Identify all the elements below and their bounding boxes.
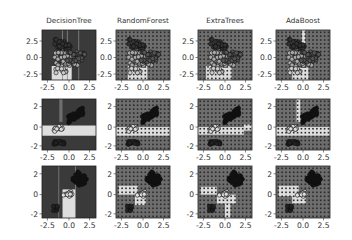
data-point bbox=[70, 114, 74, 118]
y-tick-label: -2.5 bbox=[97, 70, 112, 79]
data-point bbox=[59, 141, 63, 145]
data-point bbox=[293, 127, 297, 131]
data-point bbox=[151, 183, 155, 187]
data-point bbox=[83, 52, 87, 56]
subplot-1-0: -2.50.02.520-2 bbox=[30, 99, 96, 162]
data-point bbox=[226, 114, 230, 118]
y-tick-label: 0 bbox=[267, 190, 272, 199]
y-tick-label: 2 bbox=[189, 170, 194, 179]
subplot-2-2: -2.50.02.520-2 bbox=[186, 166, 252, 230]
x-tick-label: 2.5 bbox=[157, 221, 169, 230]
y-tick-label: -2 bbox=[264, 142, 272, 151]
y-tick-label: -2.5 bbox=[23, 70, 38, 79]
data-point bbox=[311, 183, 315, 187]
data-point bbox=[59, 127, 63, 131]
data-point bbox=[157, 52, 161, 56]
data-point bbox=[215, 67, 219, 71]
y-tick-label: -2 bbox=[264, 210, 272, 219]
x-tick-label: -2.5 bbox=[40, 83, 55, 92]
y-tick-label: 0.0 bbox=[26, 53, 38, 62]
data-point bbox=[151, 57, 155, 61]
y-tick-label: -2.5 bbox=[257, 70, 272, 79]
data-point bbox=[288, 141, 292, 145]
data-point bbox=[72, 117, 76, 121]
x-tick-label: 0.0 bbox=[297, 153, 309, 162]
data-point bbox=[233, 183, 237, 187]
data-point bbox=[315, 111, 319, 115]
y-tick-label: 2 bbox=[107, 170, 112, 179]
data-point bbox=[239, 179, 243, 183]
data-point bbox=[83, 179, 87, 183]
data-point bbox=[317, 179, 321, 183]
data-point bbox=[130, 50, 134, 54]
data-point bbox=[135, 71, 139, 75]
y-tick-label: -2 bbox=[104, 210, 112, 219]
data-point bbox=[81, 111, 85, 115]
x-tick-label: 0.0 bbox=[63, 153, 75, 162]
data-point bbox=[74, 173, 78, 177]
x-tick-label: 0.0 bbox=[137, 153, 149, 162]
y-tick-label: 2 bbox=[189, 102, 194, 111]
data-point bbox=[61, 71, 65, 75]
data-point bbox=[237, 111, 241, 115]
data-point bbox=[210, 141, 214, 145]
data-point bbox=[317, 52, 321, 56]
data-point bbox=[289, 204, 293, 208]
data-point bbox=[55, 127, 59, 131]
data-point bbox=[157, 179, 161, 183]
data-point bbox=[213, 40, 217, 44]
data-point bbox=[302, 50, 306, 54]
data-point bbox=[217, 59, 221, 63]
data-point bbox=[289, 66, 293, 70]
y-tick-label: 0 bbox=[107, 190, 112, 199]
subplot-2-0: -2.50.02.520-2 bbox=[30, 166, 96, 230]
x-tick-label: 2.5 bbox=[83, 153, 95, 162]
data-point bbox=[155, 111, 159, 115]
y-tick-label: 0 bbox=[33, 190, 38, 199]
y-tick-label: 2.5 bbox=[100, 37, 112, 46]
data-point bbox=[57, 44, 61, 48]
data-point bbox=[142, 192, 146, 196]
data-point bbox=[77, 183, 81, 187]
data-point bbox=[308, 173, 312, 177]
x-tick-label: 0.0 bbox=[219, 83, 231, 92]
data-point bbox=[65, 58, 69, 62]
data-point bbox=[295, 71, 299, 75]
data-point bbox=[304, 114, 308, 118]
data-point bbox=[133, 127, 137, 131]
x-tick-label: 0.0 bbox=[297, 83, 309, 92]
x-tick-label: -2.5 bbox=[196, 221, 211, 230]
subplot-0-2: ExtraTrees-2.50.02.52.50.0-2.5 bbox=[179, 16, 252, 92]
y-tick-label: 2.5 bbox=[26, 37, 38, 46]
data-point bbox=[68, 50, 72, 54]
data-point bbox=[289, 127, 293, 131]
data-point bbox=[131, 40, 135, 44]
data-point bbox=[213, 44, 217, 48]
x-tick-label: -2.5 bbox=[40, 221, 55, 230]
data-point bbox=[129, 127, 133, 131]
y-tick-label: -2 bbox=[30, 142, 38, 151]
x-tick-label: 2.5 bbox=[317, 83, 329, 92]
x-tick-label: -2.5 bbox=[114, 153, 129, 162]
data-point bbox=[293, 67, 297, 71]
subplot-1-3: -2.50.02.520-2 bbox=[264, 99, 330, 162]
subplot-title: DecisionTree bbox=[46, 16, 92, 25]
subplot-title: RandomForest bbox=[117, 16, 169, 25]
subplot-2-1: -2.50.02.520-2 bbox=[104, 166, 170, 230]
data-point bbox=[148, 173, 152, 177]
data-point bbox=[212, 50, 216, 54]
data-point bbox=[55, 66, 59, 70]
data-point bbox=[212, 57, 216, 61]
x-tick-label: 2.5 bbox=[157, 153, 169, 162]
data-point bbox=[291, 40, 295, 44]
subplot-0-0: DecisionTree-2.50.02.52.50.0-2.5 bbox=[23, 16, 96, 92]
data-point bbox=[78, 51, 82, 55]
data-point bbox=[290, 50, 294, 54]
data-point bbox=[211, 66, 215, 70]
data-point bbox=[239, 52, 243, 56]
x-tick-label: 2.5 bbox=[83, 221, 95, 230]
y-tick-label: 0 bbox=[107, 123, 112, 132]
data-point bbox=[133, 67, 137, 71]
y-tick-label: -2.5 bbox=[179, 70, 194, 79]
data-point bbox=[296, 55, 300, 59]
